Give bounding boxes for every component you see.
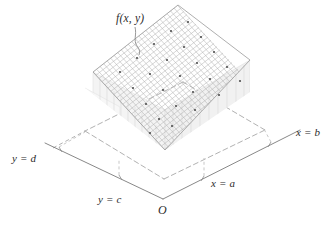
y-lower-limit-label: y = c [98, 193, 122, 205]
y-upper-limit-label: y = d [12, 152, 36, 164]
leader-y-d [59, 132, 85, 147]
surface-diagram-svg [0, 0, 331, 234]
x-upper-limit-label: x = b [296, 126, 320, 138]
leader-x-b [265, 131, 271, 142]
double-integral-figure: f(x, y) x = b x = a y = d y = c O [0, 0, 331, 234]
origin-label: O [158, 203, 167, 218]
x-lower-limit-label: x = a [211, 177, 235, 189]
y-axis-line [45, 143, 163, 199]
corner-tick-yd [53, 131, 85, 148]
surface-function-label: f(x, y) [116, 12, 144, 24]
